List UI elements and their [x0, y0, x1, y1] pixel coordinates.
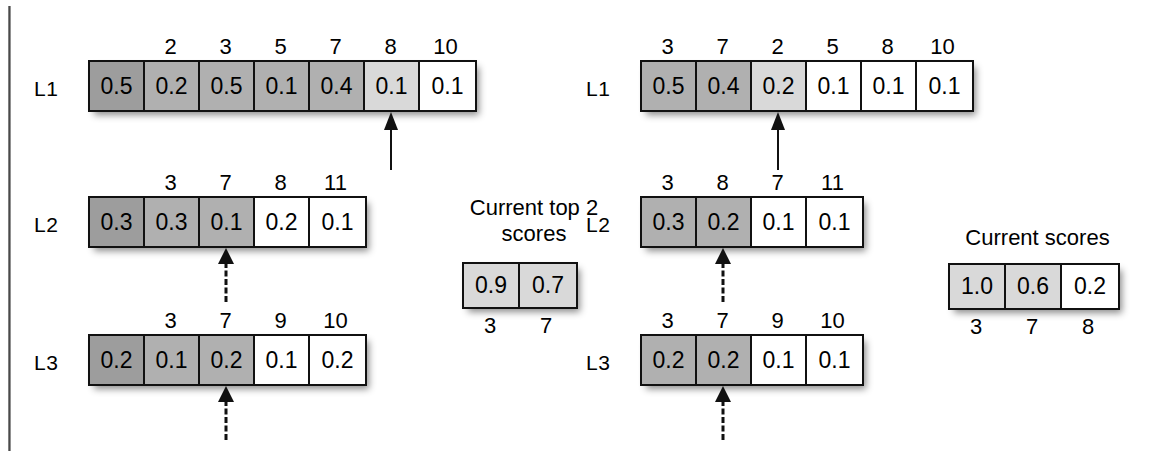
list-header-row: 37910 [88, 304, 363, 334]
list-header-cell: 7 [198, 304, 253, 334]
list-value-cell: 0.1 [255, 336, 310, 384]
list-value-cell: 0.1 [807, 336, 862, 384]
list-value-cell: 0.1 [752, 336, 807, 384]
list-cell-row: 0.30.20.10.1 [640, 196, 864, 248]
list-value-cell: 0.5 [642, 62, 697, 110]
score-footer-cell: 8 [1060, 316, 1116, 338]
list-value-cell: 0.1 [145, 336, 200, 384]
score-cell-row: 0.90.7 [462, 262, 578, 309]
diagram-canvas: L1 2357810 0.50.20.50.10.40.10.1 L2 3781… [0, 0, 1153, 457]
list-header-cell: 9 [750, 304, 805, 334]
list-header-row: 37811 [88, 166, 363, 196]
list-value-cell: 0.2 [145, 62, 200, 110]
list-value-cell: 0.1 [807, 62, 862, 110]
score-value-cell: 1.0 [950, 265, 1006, 308]
score-panel-caption: Current scores [930, 225, 1145, 251]
list-value-cell: 0.2 [697, 198, 752, 246]
list-header-cell: 9 [253, 304, 308, 334]
score-value-cell: 0.6 [1006, 265, 1062, 308]
list-cell-row: 0.50.20.50.10.40.10.1 [88, 60, 477, 112]
list-header-cell: 11 [805, 166, 860, 196]
list-row-label: L2 [586, 214, 610, 235]
list-value-cell: 0.1 [365, 62, 420, 110]
list-header-row: 2357810 [88, 30, 473, 60]
list-value-cell: 0.5 [90, 62, 145, 110]
score-footer-cell: 3 [462, 315, 518, 337]
list-value-cell: 0.1 [255, 62, 310, 110]
list-header-cell: 7 [695, 30, 750, 60]
list-row-label: L3 [586, 352, 610, 373]
score-cell-row: 1.00.60.2 [948, 263, 1120, 310]
score-value-cell: 0.2 [1062, 265, 1118, 308]
list-value-cell: 0.2 [697, 336, 752, 384]
list-row-label: L2 [34, 214, 58, 235]
list-header-row: 37910 [640, 304, 860, 334]
list-value-cell: 0.2 [200, 336, 255, 384]
list-row-label: L3 [34, 352, 58, 373]
list-header-cell: 2 [143, 30, 198, 60]
list-header-cell: 10 [308, 304, 363, 334]
list-row-label: L1 [34, 78, 58, 99]
list-value-cell: 0.2 [255, 198, 310, 246]
score-footer-row: 378 [948, 316, 1116, 338]
list-header-cell: 7 [308, 30, 363, 60]
list-value-cell: 0.2 [642, 336, 697, 384]
list-cell-row: 0.50.40.20.10.10.1 [640, 60, 974, 112]
score-footer-cell: 3 [948, 316, 1004, 338]
list-header-cell: 2 [750, 30, 805, 60]
list-value-cell: 0.1 [200, 198, 255, 246]
list-header-cell: 7 [198, 166, 253, 196]
list-value-cell: 0.4 [697, 62, 752, 110]
list-header-row: 3725810 [640, 30, 970, 60]
list-value-cell: 0.2 [90, 336, 145, 384]
list-header-cell: 5 [805, 30, 860, 60]
score-footer-row: 37 [462, 315, 574, 337]
list-value-cell: 0.1 [420, 62, 475, 110]
list-value-cell: 0.3 [90, 198, 145, 246]
list-header-cell: 10 [418, 30, 473, 60]
list-value-cell: 0.5 [200, 62, 255, 110]
list-header-cell: 10 [805, 304, 860, 334]
list-header-cell: 7 [695, 304, 750, 334]
list-header-cell: 7 [750, 166, 805, 196]
list-header-cell: 8 [253, 166, 308, 196]
list-row-label: L1 [586, 78, 610, 99]
list-value-cell: 0.4 [310, 62, 365, 110]
list-value-cell: 0.2 [752, 62, 807, 110]
score-value-cell: 0.9 [464, 264, 520, 307]
score-footer-cell: 7 [518, 315, 574, 337]
list-value-cell: 0.3 [145, 198, 200, 246]
list-header-cell: 10 [915, 30, 970, 60]
list-header-cell: 3 [143, 304, 198, 334]
list-value-cell: 0.1 [862, 62, 917, 110]
list-value-cell: 0.1 [807, 198, 862, 246]
list-header-cell: 3 [640, 30, 695, 60]
list-header-row: 38711 [640, 166, 860, 196]
list-value-cell: 0.1 [310, 198, 365, 246]
page-edge-artifact [8, 6, 11, 451]
list-header-cell: 8 [695, 166, 750, 196]
list-cell-row: 0.20.10.20.10.2 [88, 334, 367, 386]
list-cell-row: 0.30.30.10.20.1 [88, 196, 367, 248]
list-header-cell: 3 [198, 30, 253, 60]
list-header-cell: 3 [640, 304, 695, 334]
score-footer-cell: 7 [1004, 316, 1060, 338]
score-value-cell: 0.7 [520, 264, 576, 307]
list-value-cell: 0.3 [642, 198, 697, 246]
list-header-cell: 11 [308, 166, 363, 196]
list-header-cell: 5 [253, 30, 308, 60]
list-value-cell: 0.1 [917, 62, 972, 110]
list-cell-row: 0.20.20.10.1 [640, 334, 864, 386]
list-header-cell: 8 [860, 30, 915, 60]
list-header-cell: 3 [640, 166, 695, 196]
list-header-cell: 8 [363, 30, 418, 60]
list-value-cell: 0.1 [752, 198, 807, 246]
list-header-cell: 3 [143, 166, 198, 196]
list-value-cell: 0.2 [310, 336, 365, 384]
